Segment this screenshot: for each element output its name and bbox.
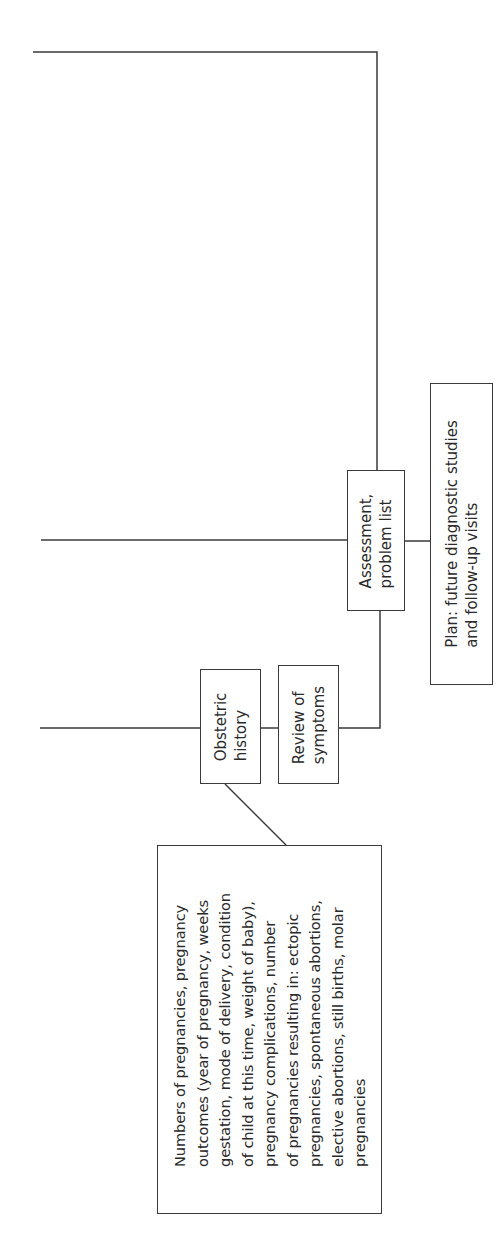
assessment-label-line-1: Assessment, xyxy=(356,493,376,588)
obstetric-detail-connector xyxy=(225,784,286,845)
review-of-symptoms-label-line-1: Review of xyxy=(289,685,309,763)
assessment-label-line-2: problem list xyxy=(376,493,396,588)
obstetric-detail-line-7: pregnancies, spontaneous abortions, xyxy=(303,892,326,1166)
review-of-symptoms-box: Review of symptoms xyxy=(278,665,339,784)
assessment-box: Assessment, problem list xyxy=(347,470,405,611)
obstetric-detail-line-3: gestation, mode of delivery, condition xyxy=(213,892,236,1166)
obstetric-history-box: Obstetric history xyxy=(200,669,261,784)
obstetric-history-label-line-1: Obstetric xyxy=(211,692,231,761)
obstetric-detail-line-5: pregnancy complications, number xyxy=(258,892,281,1166)
plan-label-line-2: and follow-up visits xyxy=(462,420,482,648)
obstetric-detail-line-8: elective abortions, still births, molar xyxy=(326,892,349,1166)
review-of-symptoms-label-line-2: symptoms xyxy=(309,685,329,763)
obstetric-detail-line-2: outcomes (year of pregnancy, weeks xyxy=(191,892,214,1166)
review-assessment-connector xyxy=(339,611,380,728)
plan-label-line-1: Plan: future diagnostic studies xyxy=(442,420,462,648)
top-branch-line xyxy=(33,52,377,470)
obstetric-detail-line-4: of child at this time, weight of baby), xyxy=(236,892,259,1166)
obstetric-detail-line-9: pregnancies xyxy=(348,892,371,1166)
obstetric-detail-line-1: Numbers of pregnancies, pregnancy xyxy=(168,892,191,1166)
obstetric-detail-box: Numbers of pregnancies, pregnancy outcom… xyxy=(157,845,382,1214)
obstetric-history-label-line-2: history xyxy=(231,692,251,761)
plan-box: Plan: future diagnostic studies and foll… xyxy=(430,383,493,685)
obstetric-detail-line-6: of pregnancies resulting in: ectopic xyxy=(281,892,304,1166)
